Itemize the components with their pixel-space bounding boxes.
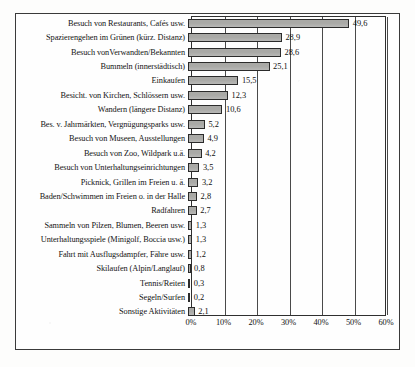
category-label: Besuch von Restaurants, Cafés usw. — [20, 19, 188, 28]
bar[interactable] — [188, 163, 199, 172]
bar-value-label: 0,2 — [194, 293, 204, 302]
gridline-50 — [355, 17, 356, 315]
category-label: Baden/Schwimmen im Freien o. in der Hall… — [20, 192, 188, 201]
gridline-60 — [387, 17, 388, 315]
x-tick-label: 40% — [313, 318, 328, 327]
bar[interactable] — [188, 134, 204, 143]
x-tick-label: 20% — [248, 318, 263, 327]
category-label: Skilaufen (Alpin/Langlauf) — [20, 264, 188, 273]
bar-value-label: 1,2 — [195, 250, 205, 259]
bar-value-label: 5,2 — [208, 120, 218, 129]
bar[interactable] — [188, 250, 192, 259]
bar-value-label: 1,3 — [196, 235, 206, 244]
x-tick-label: 30% — [281, 318, 296, 327]
category-label: Tennis/Reiten — [20, 279, 188, 288]
bar[interactable] — [188, 76, 238, 85]
bar[interactable] — [188, 149, 202, 158]
gridline-30 — [290, 17, 291, 315]
bar-value-label: 4,2 — [205, 149, 215, 158]
bar[interactable] — [188, 293, 190, 302]
category-label: Besuch von Museen, Ausstellungen — [20, 134, 188, 143]
bar-value-label: 15,5 — [242, 76, 257, 85]
category-label: Bes. v. Jahrmärkten, Vergnügungsparks us… — [20, 120, 188, 129]
bar[interactable] — [188, 91, 228, 100]
horizontal-bar-chart: Besuch von Restaurants, Cafés usw.49,6Sp… — [0, 0, 415, 367]
bar-value-label: 0,8 — [194, 264, 204, 273]
x-tick-label: 10% — [216, 318, 231, 327]
gridline-40 — [322, 17, 323, 315]
category-label: Picknick, Grillen im Freien u. ä. — [20, 178, 188, 187]
category-label: Sonstige Aktivitäten — [20, 307, 188, 316]
bar-value-label: 1,3 — [196, 221, 206, 230]
bar[interactable] — [188, 206, 197, 215]
category-label: Spazierengehen im Grünen (kürz. Distanz) — [20, 33, 188, 42]
bar-value-label: 2,1 — [198, 307, 208, 316]
bar[interactable] — [188, 19, 349, 28]
bar[interactable] — [188, 178, 198, 187]
bar[interactable] — [188, 221, 192, 230]
x-axis-ticks: 0%10%20%30%40%50%60% — [191, 318, 386, 332]
bar[interactable] — [188, 192, 197, 201]
bar[interactable] — [188, 120, 205, 129]
category-label: Fahrt mit Ausflugsdampfer, Fähre usw. — [20, 250, 188, 259]
bar-value-label: 12,3 — [231, 91, 246, 100]
category-label: Bummeln (innerstädtisch) — [20, 62, 188, 71]
bar-value-label: 4,9 — [207, 134, 217, 143]
bar-value-label: 2,8 — [201, 192, 211, 201]
chart-screenshot: Besuch von Restaurants, Cafés usw.49,6Sp… — [0, 0, 415, 367]
category-label: Wandern (längere Distanz) — [20, 105, 188, 114]
bar-value-label: 49,6 — [353, 19, 368, 28]
category-label: Radfahren — [20, 206, 188, 215]
category-label: Besuch von Unterhaltungseinrichtungen — [20, 163, 188, 172]
bar[interactable] — [188, 62, 270, 71]
bar-value-label: 0,3 — [194, 279, 204, 288]
bar-value-label: 10,6 — [226, 105, 241, 114]
category-label: Besuch vonVerwandten/Bekannten — [20, 48, 188, 57]
category-label: Einkaufen — [20, 76, 188, 85]
x-tick-label: 50% — [346, 318, 361, 327]
bar-value-label: 3,5 — [203, 163, 213, 172]
category-label: Besicht. von Kirchen, Schlössern usw. — [20, 91, 188, 100]
bar[interactable] — [188, 264, 191, 273]
bar[interactable] — [188, 235, 192, 244]
x-tick-label: 0% — [185, 318, 196, 327]
bar-value-label: 28,6 — [284, 48, 299, 57]
bar[interactable] — [188, 105, 222, 114]
x-tick-label: 60% — [378, 318, 393, 327]
category-label: Sammeln von Pilzen, Blumen, Beeren usw. — [20, 221, 188, 230]
bar-value-label: 25,1 — [273, 62, 288, 71]
category-label: Unterhaltungsspiele (Minigolf, Boccia us… — [20, 235, 188, 244]
bar-value-label: 28,9 — [285, 33, 300, 42]
bar[interactable] — [188, 279, 190, 288]
bar[interactable] — [188, 307, 195, 316]
plot-area-border — [191, 16, 386, 316]
bar[interactable] — [188, 48, 281, 57]
bar-value-label: 3,2 — [202, 178, 212, 187]
category-label: Segeln/Surfen — [20, 293, 188, 302]
bar[interactable] — [188, 33, 282, 42]
bar-value-label: 2,7 — [200, 206, 210, 215]
category-label: Besuch von Zoo, Wildpark u.ä. — [20, 149, 188, 158]
